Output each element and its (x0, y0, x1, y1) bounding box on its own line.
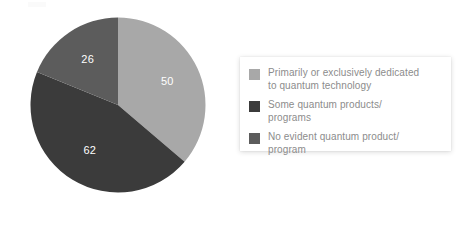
pie-slice-value-label: 26 (81, 53, 94, 65)
pie-slice-value-label: 50 (161, 75, 174, 87)
pie-chart-figure: 506226 Primarily or exclusively dedicate… (0, 0, 462, 229)
pie-chart-svg: 506226 (30, 17, 206, 193)
chart-legend: Primarily or exclusively dedicated to qu… (240, 57, 451, 151)
legend-item[interactable]: No evident quantum product/ program (249, 131, 441, 156)
pie-slice-value-label: 62 (83, 144, 96, 156)
legend-swatch-icon (249, 101, 260, 112)
pie-chart-plot-area: 506226 (30, 17, 206, 193)
legend-item[interactable]: Primarily or exclusively dedicated to qu… (249, 67, 441, 92)
pie-slice-group (30, 18, 205, 193)
legend-item-label: Primarily or exclusively dedicated to qu… (268, 67, 419, 92)
legend-swatch-icon (249, 69, 260, 80)
image-artifact (28, 2, 46, 7)
legend-item-label: Some quantum products/ programs (268, 99, 382, 124)
legend-item[interactable]: Some quantum products/ programs (249, 99, 441, 124)
legend-item-label: No evident quantum product/ program (268, 131, 399, 156)
legend-swatch-icon (249, 133, 260, 144)
